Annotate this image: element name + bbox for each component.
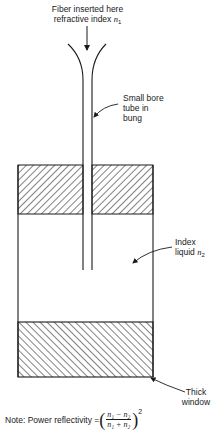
- left-paren: (: [99, 411, 105, 429]
- tube-label-line3: bung: [123, 113, 164, 123]
- fiber-label: Fiber inserted here refractive index n1: [40, 4, 135, 27]
- exponent: 2: [138, 408, 142, 415]
- window-label-line2: window: [176, 397, 216, 407]
- n1-subscript: 1: [118, 19, 121, 25]
- bung: [18, 165, 153, 214]
- small-bore-tube: [68, 44, 106, 270]
- liquid-label: Index liquid n2: [175, 237, 205, 260]
- diagram-canvas: [0, 0, 219, 430]
- fraction-numerator: n₁ − n₂: [106, 410, 131, 420]
- window-label: Thick window: [176, 387, 216, 407]
- fiber-label-text: refractive index: [54, 14, 114, 24]
- thick-window: [18, 322, 153, 377]
- n2-subscript: 2: [201, 252, 204, 258]
- reflectivity-note: Note: Power reflectivity = ( n₁ − n₂ n₁ …: [5, 410, 142, 429]
- tube-label-line1: Small bore: [123, 93, 164, 103]
- liquid-label-line1: Index: [175, 237, 205, 247]
- fraction-denominator: n₁ + n₂: [107, 420, 130, 429]
- note-prefix: Note: Power reflectivity =: [5, 415, 99, 425]
- tube-pointer-arrow: [94, 104, 118, 117]
- fiber-label-line2: refractive index n1: [40, 14, 135, 27]
- tube-label-line2: tube in: [123, 103, 164, 113]
- reflectivity-fraction: n₁ − n₂ n₁ + n₂: [106, 410, 131, 429]
- liquid-label-line2: liquid n2: [175, 247, 205, 260]
- liquid-label-text: liquid: [175, 247, 197, 257]
- window-label-line1: Thick: [176, 387, 216, 397]
- tube-label: Small bore tube in bung: [123, 93, 164, 123]
- fiber-label-line1: Fiber inserted here: [40, 4, 135, 14]
